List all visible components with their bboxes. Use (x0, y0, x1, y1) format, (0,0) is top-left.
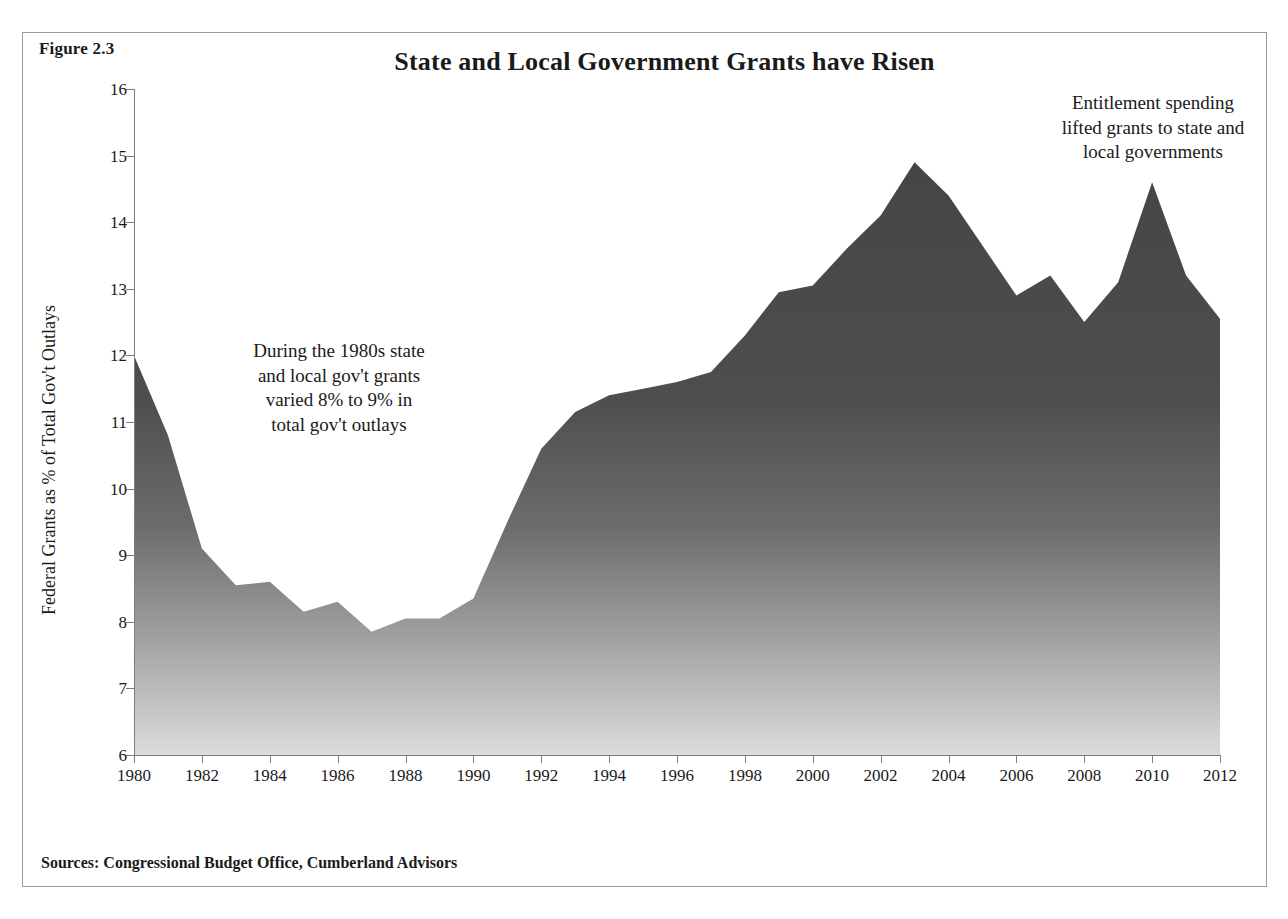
x-tick-label: 1984 (253, 767, 287, 784)
y-tick-mark (126, 156, 134, 157)
y-tick-mark (126, 355, 134, 356)
x-tick-label: 1996 (660, 767, 694, 784)
x-tick-label: 2012 (1203, 767, 1237, 784)
y-tick-label: 11 (111, 414, 127, 431)
x-tick-mark (1016, 755, 1017, 763)
x-tick-mark (1084, 755, 1085, 763)
y-tick-label: 16 (110, 81, 127, 98)
x-tick-label: 2008 (1067, 767, 1101, 784)
x-tick-mark (1220, 755, 1221, 763)
x-tick-label: 2010 (1135, 767, 1169, 784)
x-tick-mark (134, 755, 135, 763)
y-axis-title: Federal Grants as % of Total Gov't Outla… (39, 304, 60, 614)
x-tick-mark (813, 755, 814, 763)
x-tick-label: 2000 (796, 767, 830, 784)
x-tick-label: 1992 (524, 767, 558, 784)
y-tick-mark (126, 555, 134, 556)
x-tick-label: 1982 (185, 767, 219, 784)
x-tick-mark (338, 755, 339, 763)
y-tick-mark (126, 289, 134, 290)
x-tick-mark (406, 755, 407, 763)
x-tick-label: 1994 (592, 767, 626, 784)
y-tick-label: 9 (119, 547, 128, 564)
y-tick-label: 8 (119, 613, 128, 630)
annotation-entitlement: Entitlement spending lifted grants to st… (1008, 91, 1288, 165)
x-tick-label: 1998 (728, 767, 762, 784)
x-tick-label: 2002 (864, 767, 898, 784)
x-tick-mark (1152, 755, 1153, 763)
y-tick-mark (126, 89, 134, 90)
x-tick-label: 1988 (389, 767, 423, 784)
y-tick-mark (126, 622, 134, 623)
data-area (134, 162, 1220, 755)
y-tick-label: 13 (110, 280, 127, 297)
x-tick-mark (609, 755, 610, 763)
x-tick-label: 1980 (117, 767, 151, 784)
x-tick-mark (745, 755, 746, 763)
y-tick-mark (126, 489, 134, 490)
x-tick-label: 2004 (932, 767, 966, 784)
x-tick-label: 1986 (321, 767, 355, 784)
x-tick-label: 2006 (999, 767, 1033, 784)
y-tick-label: 10 (110, 480, 127, 497)
y-tick-label: 14 (110, 214, 127, 231)
x-tick-mark (881, 755, 882, 763)
y-axis-line (134, 89, 135, 755)
y-tick-mark (126, 422, 134, 423)
figure-frame: Figure 2.3 State and Local Government Gr… (22, 32, 1267, 887)
chart-title: State and Local Government Grants have R… (23, 47, 1266, 77)
x-tick-mark (541, 755, 542, 763)
x-tick-mark (473, 755, 474, 763)
y-tick-label: 7 (119, 680, 128, 697)
x-tick-label: 1990 (456, 767, 490, 784)
y-tick-mark (126, 755, 134, 756)
y-tick-label: 6 (119, 747, 128, 764)
y-tick-label: 15 (110, 147, 127, 164)
x-tick-mark (677, 755, 678, 763)
y-tick-mark (126, 222, 134, 223)
x-tick-mark (202, 755, 203, 763)
y-tick-label: 12 (110, 347, 127, 364)
x-tick-mark (270, 755, 271, 763)
x-tick-mark (949, 755, 950, 763)
annotation-1980s: During the 1980s state and local gov't g… (189, 339, 489, 438)
sources-note: Sources: Congressional Budget Office, Cu… (41, 854, 457, 872)
